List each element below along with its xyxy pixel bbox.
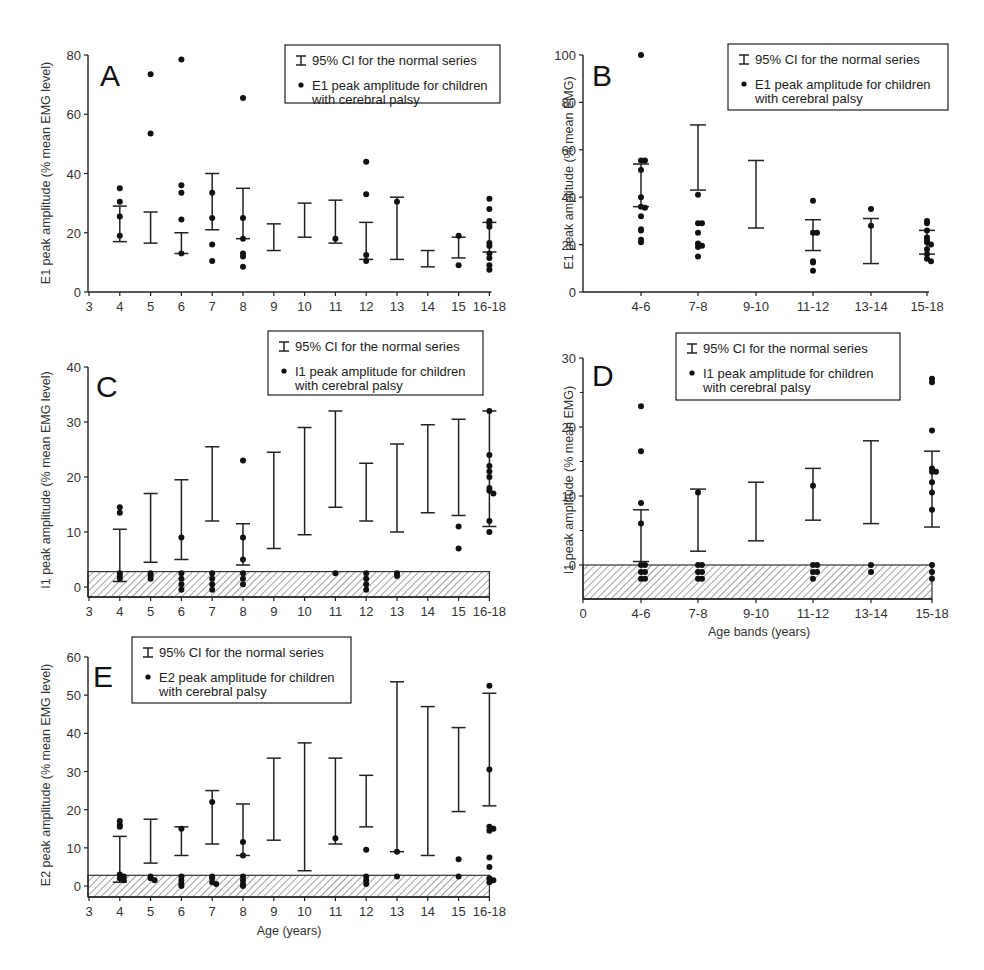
- ci-bar: [298, 428, 312, 535]
- data-point: [924, 220, 930, 226]
- data-point: [240, 852, 246, 858]
- x-tick-label: 12: [359, 904, 373, 919]
- data-point: [178, 826, 184, 832]
- y-tick-label: 0: [74, 285, 81, 300]
- x-tick-label: 3: [85, 904, 92, 919]
- data-point: [394, 199, 400, 205]
- data-point: [486, 206, 492, 212]
- legend-ci-label: 95% CI for the normal series: [312, 53, 477, 68]
- x-tick-label: 13-14: [854, 606, 887, 621]
- data-point: [810, 259, 816, 265]
- y-axis-label: E2 peak amplitude (% mean EMG level): [39, 664, 53, 886]
- data-point: [240, 236, 246, 242]
- ci-bar: [144, 819, 158, 863]
- data-point: [695, 253, 701, 259]
- normal-range-band: [583, 565, 932, 599]
- panel-c: 010203040345678910111213141516-18CI1 pea…: [39, 331, 506, 619]
- data-point: [240, 883, 246, 889]
- ci-bar: [452, 728, 466, 812]
- x-tick-label: 11: [329, 299, 343, 314]
- data-point: [117, 185, 123, 191]
- data-point: [929, 576, 935, 582]
- data-point: [699, 576, 705, 582]
- data-point: [933, 469, 939, 475]
- ci-bar: [421, 425, 435, 513]
- data-point: [209, 215, 215, 221]
- data-point: [394, 849, 400, 855]
- y-axis-label: I1 peak amplitude (% mean EMG): [562, 386, 576, 574]
- data-point: [209, 587, 215, 593]
- ci-bar: [748, 160, 764, 228]
- data-point: [642, 569, 648, 575]
- legend-ci-label: 95% CI for the normal series: [755, 52, 920, 67]
- data-point: [178, 56, 184, 62]
- data-point: [456, 856, 462, 862]
- data-point: [929, 569, 935, 575]
- x-tick-label: 14: [421, 299, 435, 314]
- data-point: [209, 581, 215, 587]
- x-tick-label: 8: [239, 604, 246, 619]
- data-point: [332, 570, 338, 576]
- data-point: [363, 847, 369, 853]
- x-tick-label: 11-12: [797, 299, 829, 314]
- data-point: [638, 239, 644, 245]
- data-point: [363, 881, 369, 887]
- ci-bar: [298, 203, 312, 237]
- data-point: [929, 379, 935, 385]
- data-point: [148, 131, 154, 137]
- data-point: [929, 479, 935, 485]
- data-point: [695, 244, 701, 250]
- dot-glyph-icon: [298, 82, 303, 87]
- data-point: [486, 408, 492, 414]
- data-point: [332, 236, 338, 242]
- data-point: [209, 190, 215, 196]
- y-tick-label: 10: [67, 841, 81, 856]
- data-point: [240, 570, 246, 576]
- data-point: [178, 216, 184, 222]
- x-tick-label: 4-6: [632, 299, 651, 314]
- data-point: [209, 799, 215, 805]
- y-tick-label: 10: [67, 525, 81, 540]
- data-point: [148, 71, 154, 77]
- data-point: [486, 474, 492, 480]
- data-point: [868, 206, 874, 212]
- legend-points-label: I1 peak amplitude for children: [703, 366, 874, 381]
- data-point: [363, 159, 369, 165]
- ci-bar: [452, 237, 466, 258]
- x-tick-label: 7-8: [689, 606, 708, 621]
- x-tick-label: 15: [451, 604, 465, 619]
- data-point: [394, 573, 400, 579]
- data-point: [642, 576, 648, 582]
- ci-bar: [633, 510, 649, 562]
- data-point: [486, 828, 492, 834]
- data-point: [638, 213, 644, 219]
- legend-points-label: I1 peak amplitude for children: [295, 364, 466, 379]
- x-axis-label: Age (years): [257, 924, 322, 938]
- ci-bar: [267, 452, 281, 548]
- data-point: [178, 883, 184, 889]
- data-point: [928, 242, 934, 248]
- data-point: [363, 191, 369, 197]
- data-point: [486, 243, 492, 249]
- x-tick-label: 15: [451, 299, 465, 314]
- x-tick-label: 11: [329, 904, 343, 919]
- x-tick-label: 14: [421, 904, 435, 919]
- data-point: [209, 570, 215, 576]
- legend-points-label-line2: with cerebral palsy: [754, 91, 863, 106]
- data-point: [929, 562, 935, 568]
- x-tick-label: 3: [85, 299, 92, 314]
- x-tick-label: 10: [297, 604, 311, 619]
- legend-points-label-line2: with cerebral palsy: [311, 92, 420, 107]
- data-point: [924, 227, 930, 233]
- ci-bar: [863, 441, 879, 524]
- data-point: [486, 518, 492, 524]
- data-point: [490, 491, 496, 497]
- y-tick-label: 30: [67, 765, 81, 780]
- data-point: [486, 767, 492, 773]
- data-point: [638, 448, 644, 454]
- x-tick-label: 3: [85, 604, 92, 619]
- data-point: [178, 576, 184, 582]
- y-tick-label: 30: [562, 351, 576, 366]
- data-point: [699, 562, 705, 568]
- data-point: [117, 504, 123, 510]
